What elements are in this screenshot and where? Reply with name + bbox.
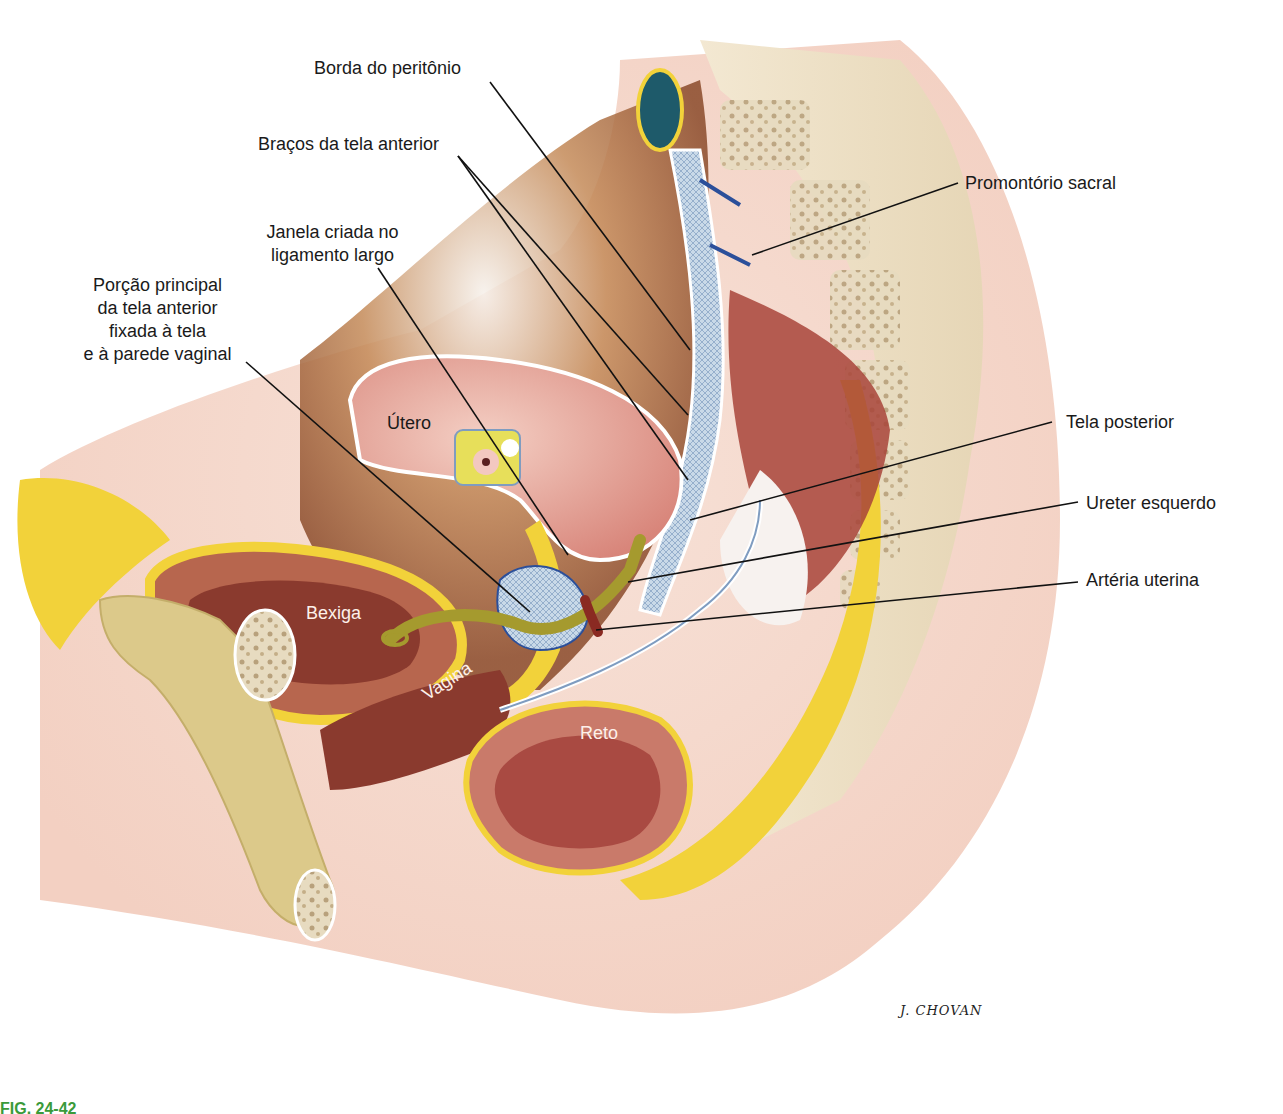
artist-signature: J. CHOVAN [900, 1003, 982, 1018]
label-tela-posterior: Tela posterior [1066, 411, 1174, 434]
organ-label-utero: Útero [387, 412, 431, 434]
label-line: Porção principal [70, 274, 245, 297]
label-bracos-tela-anterior: Braços da tela anterior [258, 133, 439, 156]
organ-label-bexiga: Bexiga [306, 602, 361, 624]
label-arteria-uterina: Artéria uterina [1086, 569, 1199, 592]
organ-label-reto: Reto [580, 722, 618, 744]
label-line: e à parede vaginal [70, 343, 245, 366]
label-line: ligamento largo [255, 244, 410, 267]
label-line: Janela criada no [255, 221, 410, 244]
label-promontorio-sacral: Promontório sacral [965, 172, 1116, 195]
label-porcao-principal: Porção principal da tela anterior fixada… [70, 274, 245, 366]
label-line: fixada à tela [70, 320, 245, 343]
label-line: da tela anterior [70, 297, 245, 320]
figure-caption: FIG. 24-42 [0, 1100, 76, 1114]
label-borda-peritonio: Borda do peritônio [314, 57, 461, 80]
label-ureter-esquerdo: Ureter esquerdo [1086, 492, 1216, 515]
label-janela-ligamento-largo: Janela criada no ligamento largo [255, 221, 410, 267]
pelvic-anatomy-illustration [0, 0, 1283, 1114]
